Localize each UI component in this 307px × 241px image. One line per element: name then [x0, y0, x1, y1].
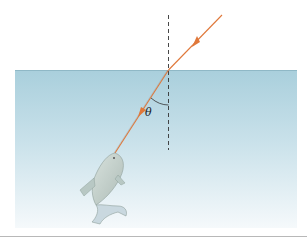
- refraction-diagram: θ: [0, 0, 307, 241]
- incident-arrow-icon: [192, 36, 200, 47]
- angle-label-theta: θ: [145, 106, 152, 119]
- water-region: [15, 70, 297, 228]
